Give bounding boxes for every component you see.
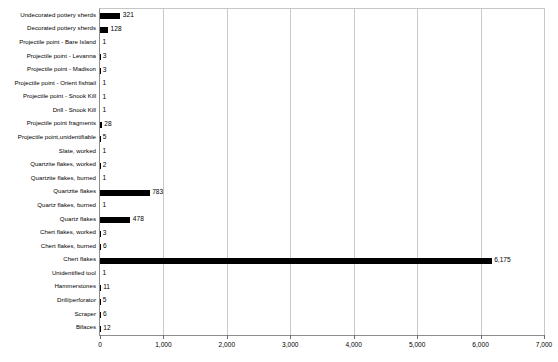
category-label-row: Slate, worked (0, 144, 96, 158)
category-label-row: Chert flakes, worked (0, 225, 96, 239)
category-label: Decorated pottery sherds (27, 24, 96, 32)
category-label: Projectile point - Levanna (27, 52, 96, 60)
bar (100, 190, 150, 196)
category-label-row: Decorated pottery sherds (0, 22, 96, 36)
category-label: Projectile point - Bare Island (19, 38, 96, 46)
bar-row: 3 (100, 50, 544, 64)
category-label-row: Quartzite flakes (0, 185, 96, 199)
bar-value-label: 3 (103, 65, 107, 75)
bar-row: 3 (100, 226, 544, 240)
bar-row: 3 (100, 63, 544, 77)
bar-value-label: 3 (103, 228, 107, 238)
bar-value-label: 11 (103, 282, 110, 292)
category-label-row: Projectile point - Snook Kill (0, 90, 96, 104)
bar-row: 783 (100, 186, 544, 200)
category-label: Bifaces (76, 323, 96, 331)
x-axis-tick (544, 335, 545, 339)
bar-value-label: 321 (123, 10, 134, 20)
bar-value-label: 1 (103, 78, 107, 88)
bar-row: 6 (100, 240, 544, 254)
category-axis-labels: Undecorated pottery sherdsDecorated pott… (0, 8, 99, 336)
category-label: Projectile point - Snook Kill (23, 92, 96, 100)
bar (100, 326, 101, 332)
bar-value-label: 1 (103, 105, 107, 115)
x-axis-tick-label: 2,000 (219, 340, 236, 349)
category-label-row: Projectile point - Bare Island (0, 35, 96, 49)
x-axis-tick-label: 0 (98, 340, 102, 349)
bar-row: 1 (100, 145, 544, 159)
bar-value-label: 1 (103, 37, 107, 47)
bar-row: 6,175 (100, 254, 544, 268)
x-axis-tick-label: 6,000 (472, 340, 489, 349)
category-label-row: Drill - Snook Kill (0, 103, 96, 117)
x-axis: 01,0002,0003,0004,0005,0006,0007,000 (99, 335, 545, 362)
category-label-row: Projectile point,unidentifiable (0, 130, 96, 144)
x-axis-tick (481, 335, 482, 339)
category-label-row: Projectile point fragments (0, 117, 96, 131)
category-label-row: Quartzite flakes, worked (0, 157, 96, 171)
category-label: Chert flakes, burned (41, 242, 96, 250)
x-axis-tick (417, 335, 418, 339)
category-label-row: Quartzite flakes, burned (0, 171, 96, 185)
category-label: Projectile point - Orient fishtail (14, 79, 96, 87)
category-label: Quartzite flakes, worked (30, 160, 96, 168)
bar (100, 27, 108, 33)
bar-row: 5 (100, 294, 544, 308)
category-label-row: Scraper (0, 307, 96, 321)
bar-value-label: 6 (103, 241, 107, 251)
bar-value-label: 5 (103, 132, 107, 142)
bar (100, 258, 492, 264)
category-label-row: Chert flakes (0, 253, 96, 267)
category-label: Quartz flakes (60, 215, 96, 223)
x-axis-tick-label: 4,000 (345, 340, 362, 349)
x-axis-tick (354, 335, 355, 339)
category-label-row: Drill/perforator (0, 293, 96, 307)
x-axis-tick (290, 335, 291, 339)
category-label: Scraper (75, 310, 96, 318)
category-label: Undecorated pottery sherds (20, 11, 96, 19)
category-label-row: Projectile point - Madison (0, 62, 96, 76)
bar (100, 217, 130, 223)
bar-value-label: 783 (152, 187, 163, 197)
x-axis-tick (100, 335, 101, 339)
bar-chart: Undecorated pottery sherdsDecorated pott… (0, 0, 558, 362)
bar-value-label: 28 (104, 119, 111, 129)
bar-value-label: 478 (133, 214, 144, 224)
x-axis-tick-label: 1,000 (155, 340, 172, 349)
category-label: Projectile point - Madison (27, 65, 96, 73)
bar-value-label: 1 (103, 173, 107, 183)
category-label-row: Hammerstones (0, 280, 96, 294)
category-label-row: Projectile point - Levanna (0, 49, 96, 63)
bar-row: 478 (100, 213, 544, 227)
x-axis-tick-label: 7,000 (536, 340, 553, 349)
bar-value-label: 3 (103, 51, 107, 61)
bar-row: 12 (100, 321, 544, 335)
plot-area: 3211281331112851217831478366,1751115612 (99, 8, 545, 336)
category-label: Drill - Snook Kill (53, 106, 96, 114)
bar (100, 122, 102, 128)
bar-value-label: 1 (103, 200, 107, 210)
bar-row: 1 (100, 104, 544, 118)
x-axis-tick (227, 335, 228, 339)
bar-row: 28 (100, 118, 544, 132)
category-label-row: Quartz flakes (0, 212, 96, 226)
category-label: Projectile point,unidentifiable (18, 133, 96, 141)
category-label: Quartzite flakes (53, 187, 96, 195)
bar-row: 1 (100, 36, 544, 50)
bar-value-label: 12 (103, 323, 110, 333)
x-axis-tick (163, 335, 164, 339)
bar-value-label: 1 (103, 268, 107, 278)
bar-value-label: 1 (103, 92, 107, 102)
x-axis-tick-label: 5,000 (409, 340, 426, 349)
bar-value-label: 1 (103, 146, 107, 156)
category-label: Quartz flakes, burned (37, 201, 96, 209)
category-label: Projectile point fragments (27, 119, 96, 127)
bar-row: 128 (100, 23, 544, 37)
category-label: Chert flakes, worked (40, 228, 96, 236)
bar-row: 321 (100, 9, 544, 23)
bar-row: 6 (100, 308, 544, 322)
x-axis-tick-label: 3,000 (282, 340, 299, 349)
bar-row: 1 (100, 172, 544, 186)
bar-value-label: 2 (103, 160, 107, 170)
category-label-row: Bifaces (0, 320, 96, 334)
